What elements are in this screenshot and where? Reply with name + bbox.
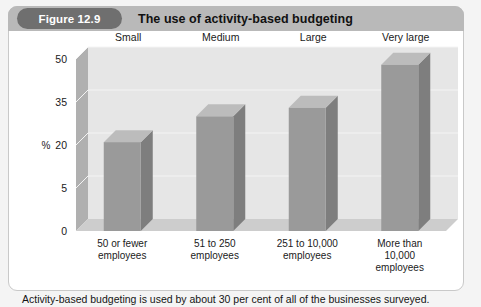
y-tick-label: 0 (61, 225, 67, 237)
bar-top-label: Medium (202, 31, 240, 43)
figure-title: The use of activity-based budgeting (138, 12, 353, 26)
figure-header: Figure 12.9 The use of activity-based bu… (8, 6, 464, 31)
category-label-line: 51 to 250 (194, 238, 236, 249)
bar-side-face (326, 96, 338, 231)
bar-side-face (418, 53, 430, 231)
bar-front-face (196, 116, 233, 231)
category-label-line: More than (377, 238, 422, 249)
bar-top-label: Very large (382, 31, 429, 43)
bar-top-label: Small (115, 31, 141, 43)
category-label-line: 50 or fewer (97, 238, 148, 249)
y-axis-unit: % (42, 140, 51, 151)
bar (381, 53, 430, 231)
bar-front-face (289, 108, 326, 231)
figure-caption: Activity-based budgeting is used by abou… (22, 293, 472, 305)
category-label-line: employees (283, 250, 331, 261)
category-label-line: 10,000 (384, 250, 415, 261)
bar (289, 96, 338, 231)
bar-chart: 05203550%SmallMediumLargeVery large50 or… (8, 31, 464, 291)
y-tick-label: 50 (55, 53, 67, 65)
y-tick-label: 35 (55, 96, 67, 108)
bar-side-face (233, 104, 245, 231)
chart-svg: 05203550%SmallMediumLargeVery large50 or… (8, 31, 464, 291)
bar-top-label: Large (300, 31, 327, 43)
figure-number-badge: Figure 12.9 (17, 8, 122, 29)
bar (104, 130, 153, 231)
category-labels: 50 or feweremployees51 to 250employees25… (97, 238, 424, 273)
y-tick-label: 20 (55, 139, 67, 151)
y-axis: 05203550% (42, 53, 68, 237)
top-labels: SmallMediumLargeVery large (115, 31, 429, 43)
y-tick-label: 5 (61, 182, 67, 194)
category-label-line: employees (98, 250, 146, 261)
category-label-line: employees (191, 250, 239, 261)
figure-number-text: Figure 12.9 (39, 13, 101, 25)
bar-front-face (381, 65, 418, 231)
category-label-line: employees (376, 262, 424, 273)
category-label-line: 251 to 10,000 (277, 238, 339, 249)
bar-side-face (141, 130, 153, 231)
bar-front-face (104, 142, 141, 231)
bar (196, 104, 245, 231)
